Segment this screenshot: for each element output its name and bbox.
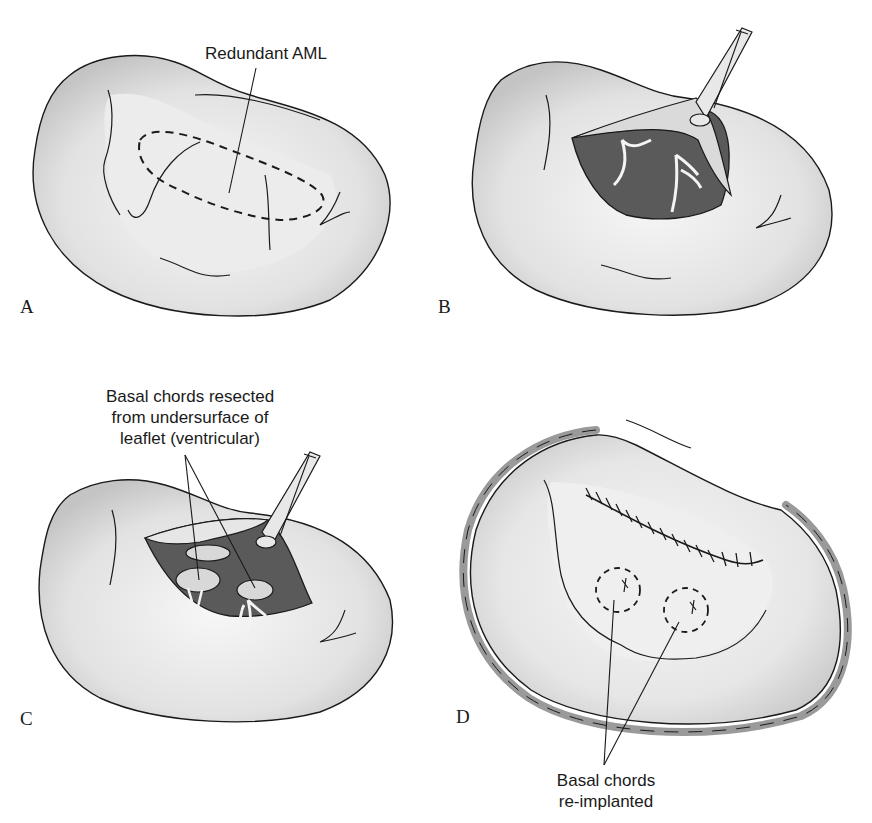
panel-letter-b: B — [438, 296, 451, 318]
valve-illustration-b — [436, 0, 872, 320]
annotation-line: Basal chords resected — [90, 386, 290, 407]
annotation-line: from undersurface of — [90, 407, 290, 428]
annotation-basal-chords-reimplanted: Basal chords re-implanted — [536, 770, 676, 812]
annotation-line: Basal chords — [536, 770, 676, 791]
resected-chord-patch — [237, 580, 273, 600]
annotation-line: re-implanted — [536, 791, 676, 812]
panel-letter-c: C — [20, 708, 33, 730]
annotation-line: leaflet (ventricular) — [90, 428, 290, 449]
panel-letter-d: D — [456, 706, 470, 728]
panel-b: B — [436, 0, 872, 320]
valve-illustration-c — [0, 320, 436, 740]
annotation-redundant-aml: Redundant AML — [205, 43, 327, 64]
valve-illustration-d — [436, 400, 872, 823]
panel-d: Basal chords re-implanted D — [436, 400, 872, 823]
panel-a: Redundant AML A — [0, 0, 436, 320]
annotation-basal-chords-resected: Basal chords resected from undersurface … — [90, 386, 290, 449]
panel-letter-a: A — [20, 296, 34, 318]
panel-c: Basal chords resected from undersurface … — [0, 320, 436, 740]
forceps-icon — [696, 28, 752, 118]
